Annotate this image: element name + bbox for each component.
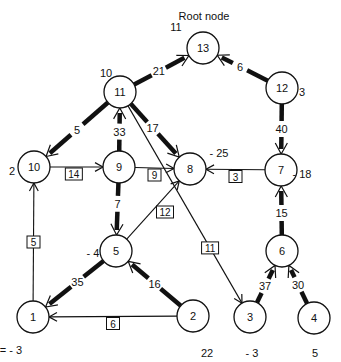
node-1: 1V1= - 3 <box>0 301 49 358</box>
nontree-edge-line <box>49 316 177 317</box>
node-8: 8- 25 <box>174 147 228 185</box>
flow-label: 30 <box>292 279 304 291</box>
cost-label: 11 <box>205 243 216 254</box>
cost-label: 5 <box>31 237 37 248</box>
tree-edge-line <box>49 287 71 304</box>
node-13: 1311 <box>170 21 219 64</box>
tree-edge: 5 <box>46 103 108 157</box>
tree-edge: 40 <box>275 104 287 154</box>
node-label: 2 <box>190 310 196 322</box>
node-label: 10 <box>28 161 40 173</box>
node-potential: 10 <box>100 67 112 79</box>
node-potential: - 4 <box>87 247 100 259</box>
tree-edge-line <box>84 261 104 277</box>
nontree-edge-line <box>206 169 265 170</box>
nontree-edge: 5 <box>27 183 40 301</box>
tree-edge-line <box>166 58 185 68</box>
node-label: 5 <box>113 245 119 257</box>
cost-box: 5 <box>27 236 40 248</box>
cost-label: 14 <box>68 169 80 180</box>
cost-label: 6 <box>110 319 116 330</box>
node-label: 3 <box>247 311 253 323</box>
node-label: 4 <box>311 312 317 324</box>
node-label: 1 <box>30 311 36 323</box>
node-9: 9 <box>103 151 135 183</box>
flow-label: 16 <box>148 278 160 290</box>
tree-edge-line <box>291 270 295 277</box>
cost-box: 3 <box>229 171 242 183</box>
root-node-title: Root node <box>179 10 230 22</box>
nontree-edge: 9 <box>135 164 174 181</box>
tree-edge: 17 <box>131 104 179 157</box>
node-potential: 2 <box>9 165 15 177</box>
nontree-edge: 12 <box>127 181 180 239</box>
nontree-edge: 6 <box>49 312 177 329</box>
tree-edge: 33 <box>113 108 125 151</box>
node-label: 13 <box>197 42 209 54</box>
node-potential: - 3 <box>246 347 259 359</box>
tree-edge: 30 <box>288 265 307 303</box>
tree-edge: 16 <box>128 261 181 305</box>
tree-edge-line <box>117 212 118 230</box>
network-diagram: 2165331740715351637301493121156 13111231… <box>0 0 341 362</box>
cost-label: 9 <box>152 170 158 181</box>
flow-label: 17 <box>146 122 158 134</box>
node-10: 102 <box>9 151 50 183</box>
node-label: 11 <box>114 86 125 98</box>
tree-edge-line <box>247 70 268 80</box>
node-label: 8 <box>187 163 193 175</box>
tree-edge-line <box>131 104 147 122</box>
tree-edge: 37 <box>257 265 276 302</box>
node-7: 7- 18 <box>265 154 311 186</box>
node-potential: - 25 <box>210 147 229 159</box>
cost-box: 11 <box>202 242 219 254</box>
cost-label: 3 <box>233 172 239 183</box>
node-12: 123 <box>266 72 305 104</box>
node-2: 222 <box>177 300 213 359</box>
node-potential: 11 <box>170 21 181 33</box>
cost-box: 14 <box>65 168 82 180</box>
flow-label: 21 <box>153 65 165 77</box>
node-label: 7 <box>278 164 284 176</box>
cost-box: 6 <box>107 318 120 330</box>
tree-edge-line <box>269 270 273 279</box>
flow-label: 37 <box>259 280 271 292</box>
tree-edge: 21 <box>134 55 189 84</box>
flow-label: 40 <box>275 123 287 135</box>
flow-label: 33 <box>113 126 125 138</box>
cost-box: 12 <box>157 206 174 218</box>
tree-edge: 15 <box>275 186 287 235</box>
tree-edge: 6 <box>217 55 267 81</box>
cost-label: 12 <box>159 207 171 218</box>
nontree-edge-line <box>135 167 174 168</box>
node-potential: - 18 <box>293 168 312 180</box>
flow-label: 15 <box>275 207 287 219</box>
tree-edge-line <box>134 75 152 84</box>
node-6: 6 <box>266 235 298 267</box>
tree-edge-line <box>161 289 181 306</box>
node-potential: V1= - 3 <box>0 344 22 358</box>
tree-edge: 7 <box>111 183 123 235</box>
node-label: 9 <box>116 161 122 173</box>
cost-box: 9 <box>148 169 161 181</box>
node-potential: 22 <box>201 347 213 359</box>
tree-edge-line <box>50 135 71 153</box>
node-label: 12 <box>276 82 288 94</box>
flow-label: 6 <box>237 61 243 73</box>
node-3: 3- 3 <box>234 301 266 359</box>
node-potential: 5 <box>312 347 318 359</box>
node-5: 5- 4 <box>87 235 132 267</box>
tree-edge-line <box>257 293 262 303</box>
nontree-edge: 14 <box>50 163 103 180</box>
tree-edge-line <box>222 57 233 63</box>
nontree-edge: 3 <box>206 165 265 183</box>
tree-edge: 35 <box>46 261 104 307</box>
tree-edge-line <box>132 265 148 279</box>
node-4: 45 <box>298 302 330 359</box>
flow-label: 35 <box>71 276 83 288</box>
node-potential: 3 <box>299 86 305 98</box>
tree-edge-line <box>158 134 176 154</box>
flow-label: 5 <box>74 124 80 136</box>
tree-edge-line <box>301 292 307 304</box>
tree-edge-line <box>83 103 108 125</box>
